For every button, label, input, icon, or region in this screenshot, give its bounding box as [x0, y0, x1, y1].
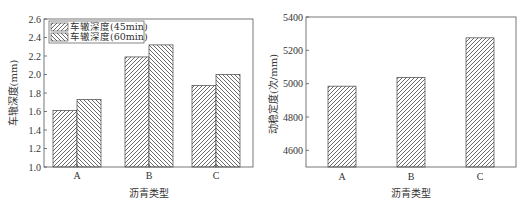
y-tick-label: 4600	[283, 145, 303, 156]
bar-C	[466, 38, 494, 167]
y-tick-label: 1.2	[29, 143, 42, 154]
x-tick-label: B	[408, 171, 415, 182]
y-tick-label: 2.6	[29, 14, 42, 25]
bar-C-60min	[216, 75, 240, 168]
y-tick-label: 5400	[283, 12, 303, 23]
legend-swatch-45min	[51, 23, 68, 31]
x-tick-label: C	[477, 171, 484, 182]
rut-depth-chart: 1.01.21.41.61.82.02.22.42.6 ABC 沥青类型 车辙深…	[7, 14, 253, 200]
y-tick-label: 1.8	[29, 88, 42, 99]
y-tick-label: 1.0	[29, 162, 42, 173]
legend-label-60min: 车辙深度(60min)	[70, 31, 148, 42]
y-tick-label: 2.0	[29, 69, 42, 80]
bar-C-45min	[192, 86, 216, 167]
legend-swatch-60min	[51, 33, 68, 41]
rut-depth-y-ticks: 1.01.21.41.61.82.02.22.42.6	[29, 14, 48, 173]
x-tick-label: A	[338, 171, 346, 182]
dynamic-stability-x-ticks: ABC	[338, 171, 483, 182]
dynamic-stability-x-label: 沥青类型	[391, 187, 431, 199]
bar-A-45min	[53, 111, 77, 167]
rut-depth-legend: 车辙深度(45min) 车辙深度(60min)	[49, 21, 148, 43]
rut-depth-bars	[53, 45, 240, 167]
bar-B	[397, 77, 425, 167]
dynamic-stability-chart: 46004800500052005400 ABC 沥青类型 动稳定度(次/mm)	[267, 12, 516, 200]
x-tick-label: C	[213, 170, 220, 181]
y-tick-label: 5000	[283, 78, 303, 89]
y-tick-label: 5200	[283, 45, 303, 56]
dynamic-stability-bars	[328, 38, 494, 167]
dynamic-stability-y-ticks: 46004800500052005400	[283, 12, 309, 156]
bar-B-45min	[125, 57, 149, 167]
y-tick-label: 2.4	[29, 32, 42, 43]
bar-A-60min	[77, 99, 101, 167]
y-tick-label: 2.2	[29, 51, 42, 62]
bar-A	[328, 86, 356, 167]
y-tick-label: 4800	[283, 112, 303, 123]
y-tick-label: 1.6	[29, 106, 42, 117]
y-tick-label: 1.4	[29, 125, 42, 136]
x-tick-label: B	[146, 170, 153, 181]
rut-depth-x-label: 沥青类型	[129, 187, 169, 199]
x-tick-label: A	[73, 170, 81, 181]
dynamic-stability-y-label: 动稳定度(次/mm)	[267, 54, 279, 134]
figure: 1.01.21.41.61.82.02.22.42.6 ABC 沥青类型 车辙深…	[0, 0, 528, 209]
bar-B-60min	[149, 45, 173, 167]
rut-depth-y-label: 车辙深度(mm)	[7, 60, 19, 127]
